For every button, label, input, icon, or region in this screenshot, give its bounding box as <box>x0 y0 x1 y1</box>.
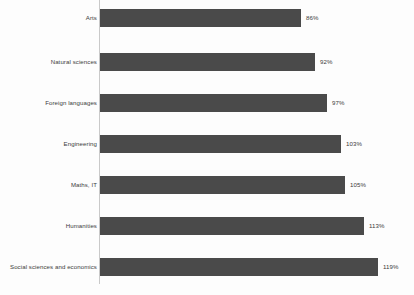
bar-value-label: 113% <box>369 217 384 235</box>
bar-value-label: 92% <box>320 53 332 71</box>
category-label: Engineering <box>0 135 97 153</box>
bar-value-label: 103% <box>346 135 362 153</box>
bar-value-label: 105% <box>350 176 366 194</box>
bars-layer: Arts 86% Natural sciences 92% Foreign la… <box>0 0 414 295</box>
bar-value-label: 97% <box>332 94 344 112</box>
category-label: Humanities <box>0 217 97 235</box>
category-label: Arts <box>0 9 97 27</box>
bar <box>100 9 301 27</box>
bar-row: Humanities 113% <box>0 217 414 235</box>
bar-chart: Arts 86% Natural sciences 92% Foreign la… <box>0 0 414 295</box>
category-label: Maths, IT <box>0 176 97 194</box>
bar <box>100 135 341 153</box>
bar-row: Maths, IT 105% <box>0 176 414 194</box>
category-label: Foreign languages <box>0 94 97 112</box>
bar <box>100 94 327 112</box>
category-label: Natural sciences <box>0 53 97 71</box>
bar-row: Foreign languages 97% <box>0 94 414 112</box>
bar-row: Natural sciences 92% <box>0 53 414 71</box>
bar <box>100 53 315 71</box>
bar-value-label: 86% <box>306 9 318 27</box>
bar <box>100 258 378 276</box>
bar-row: Engineering 103% <box>0 135 414 153</box>
bar <box>100 217 364 235</box>
bar <box>100 176 345 194</box>
category-label: Social sciences and economics <box>0 258 97 276</box>
bar-row: Social sciences and economics 119% <box>0 258 414 276</box>
bar-row: Arts 86% <box>0 9 414 27</box>
bar-value-label: 119% <box>383 258 398 276</box>
